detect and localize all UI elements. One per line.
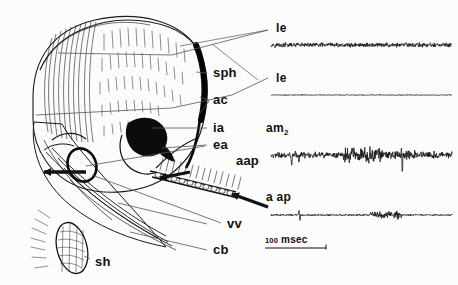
label-vv: vv	[227, 217, 242, 230]
label-ea: ea	[213, 138, 228, 151]
scale-bar-label: 100 msec	[265, 235, 308, 245]
figure-canvas	[0, 0, 458, 285]
scale-bar-unit: msec	[281, 234, 307, 245]
trace-label-le-1: le	[276, 22, 287, 34]
scale-bar-value: 100	[265, 236, 278, 245]
trace-label-aap: a ap	[266, 191, 291, 203]
emg-traces-layer	[271, 42, 452, 220]
label-sph: sph	[213, 66, 237, 79]
emg-trace-le-1	[271, 42, 452, 48]
label-cb: cb	[213, 243, 229, 256]
emg-trace-le-2	[271, 94, 452, 95]
abdomen-body	[33, 16, 207, 247]
emg-trace-aap-t	[271, 210, 452, 220]
trace-label-am2-subscript: 2	[284, 128, 289, 137]
trace-label-le-2: le	[276, 72, 287, 84]
label-ac: ac	[213, 93, 228, 106]
label-ia: ia	[213, 121, 224, 134]
label-sh: sh	[95, 255, 111, 268]
trace-label-am2-text: am	[266, 121, 284, 135]
label-aap: aap	[236, 154, 259, 167]
trace-label-am2: am2	[266, 122, 289, 137]
scale-bar-line	[265, 245, 326, 250]
time-scale-bar	[265, 245, 326, 250]
sh-structure	[31, 210, 93, 277]
emg-trace-am2	[271, 146, 452, 171]
figure-root: sph ac ia ea aap vv cb sh le le am2 a ap…	[0, 0, 458, 285]
